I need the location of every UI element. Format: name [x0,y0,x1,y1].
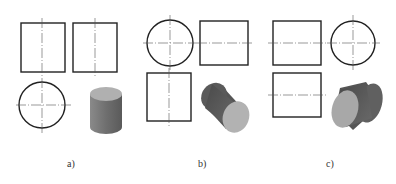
side-view-rectangle [197,21,252,65]
cylinder-3d-depth-axis [196,78,254,137]
top-view-rectangle [268,73,326,117]
panel-c-label: c) [326,158,334,169]
side-view-circle [327,15,380,71]
panel-b [143,15,254,136]
front-view-rectangle [268,21,326,65]
orthographic-projection-diagram [0,0,396,184]
cylinder-3d-vertical [90,87,122,134]
front-view-rectangle [21,18,65,77]
top-view-rectangle [147,68,191,126]
side-view-rectangle [73,18,117,77]
front-view-circle [143,15,197,71]
panel-a [16,18,122,134]
top-view-circle [16,78,72,134]
cylinder-3d-horizontal [328,81,387,131]
panel-a-label: a) [67,158,75,169]
panel-b-label: b) [198,158,206,169]
panel-c [268,15,387,131]
